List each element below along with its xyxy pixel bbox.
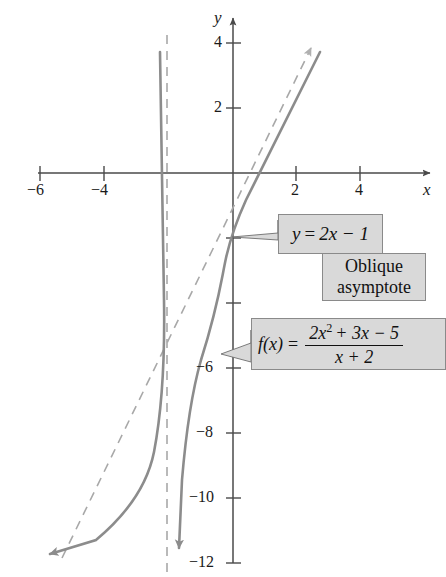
- y-tick-label-2: 2: [214, 98, 222, 116]
- y-tick-label-4: 4: [214, 33, 222, 51]
- function-left-branch: [50, 52, 164, 554]
- graph-figure: x y −6 −4 2 4 4 2 −6 −8 −10 −12 y = 2x −…: [0, 0, 446, 577]
- y-axis: [226, 18, 241, 563]
- y-tick-label-neg12: −12: [189, 553, 214, 571]
- function-right-branch: [179, 52, 320, 548]
- oblique-line2: asymptote: [337, 277, 411, 298]
- x-tick-label-neg6: −6: [27, 181, 44, 199]
- function-denominator: x + 2: [331, 346, 377, 368]
- line-equation-callout: y = 2x − 1: [278, 214, 383, 254]
- y-axis-label: y: [214, 8, 222, 28]
- function-numerator-exponent: 2: [326, 321, 332, 335]
- y-tick-label-neg6: −6: [196, 358, 213, 376]
- function-fx: f(x): [258, 334, 283, 355]
- function-equals: =: [288, 334, 298, 355]
- x-tick-label-4: 4: [355, 181, 363, 199]
- y-tick-label-neg8: −8: [196, 423, 213, 441]
- y-tick-label-neg10: −10: [189, 488, 214, 506]
- oblique-asymptote: [62, 48, 311, 558]
- oblique-asymptote-callout: Oblique asymptote: [322, 253, 426, 301]
- function-numerator-a: 2x: [309, 323, 326, 343]
- function-equation-callout: f(x) = 2x2+ 3x − 5 x + 2: [251, 318, 446, 370]
- function-numerator: 2x2+ 3x − 5: [305, 321, 403, 346]
- function-fraction: 2x2+ 3x − 5 x + 2: [305, 321, 403, 367]
- oblique-line1: Oblique: [345, 256, 403, 277]
- line-equation-equals: =: [304, 223, 315, 245]
- x-tick-label-2: 2: [291, 181, 299, 199]
- x-axis: [38, 166, 430, 181]
- line-equation-rhs: 2x − 1: [319, 223, 369, 245]
- line-label-pointer: [232, 220, 278, 240]
- x-axis-label: x: [423, 180, 431, 200]
- function-numerator-b: + 3x − 5: [335, 323, 399, 343]
- function-label-pointer: [221, 330, 251, 362]
- x-tick-label-neg4: −4: [91, 181, 108, 199]
- line-equation-y: y: [292, 223, 300, 245]
